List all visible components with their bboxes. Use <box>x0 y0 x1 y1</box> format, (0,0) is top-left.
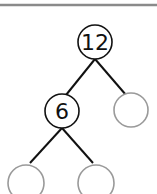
edge-root-left <box>66 59 95 95</box>
node-left: 6 <box>45 94 79 128</box>
node-left-right-empty[interactable] <box>78 165 114 194</box>
number-bond-diagram: 12 6 <box>0 0 157 194</box>
node-right-empty[interactable] <box>114 93 148 127</box>
edge-root-right <box>95 59 126 95</box>
node-left-value: 6 <box>55 99 69 124</box>
edge-left-leftright <box>62 128 93 163</box>
edge-left-leftleft <box>30 128 62 163</box>
node-left-left-empty[interactable] <box>8 165 44 194</box>
node-root: 12 <box>78 25 112 59</box>
node-root-value: 12 <box>81 30 109 55</box>
